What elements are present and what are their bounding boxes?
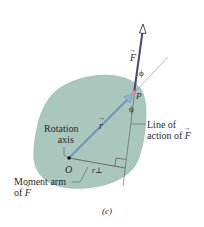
- force-label: F: [130, 52, 136, 63]
- moment-arm-line1: Moment arm: [14, 176, 66, 187]
- moment-arm-force-symbol: F: [25, 187, 31, 198]
- rotation-axis-line1: Rotation: [44, 123, 78, 134]
- line-of-action-line2: action of: [147, 130, 182, 141]
- force-vector-arrowhead: [140, 24, 147, 34]
- line-of-action-line1: Line of: [147, 119, 176, 130]
- point-p-label: P: [136, 91, 142, 102]
- origin-point: [67, 156, 71, 160]
- line-of-action-label: Line of action of F: [147, 119, 191, 141]
- moment-arm-line2: of: [14, 187, 22, 198]
- line-of-action-force-symbol: F: [185, 130, 191, 141]
- rotation-axis-line2: axis: [49, 134, 74, 145]
- torque-diagram: F ϕ P ϕ r Rotation axis Line of action o…: [0, 0, 204, 227]
- moment-arm-symbol: r⊥: [92, 165, 103, 176]
- moment-arm-label: Moment arm of F: [14, 176, 66, 198]
- phi-bottom-label: ϕ: [129, 104, 134, 115]
- position-label: r: [99, 120, 103, 131]
- figure-caption: (c): [102, 206, 112, 217]
- rotation-axis-label: Rotation axis: [44, 123, 78, 145]
- phi-top-label: ϕ: [139, 68, 144, 79]
- origin-label: O: [65, 164, 72, 175]
